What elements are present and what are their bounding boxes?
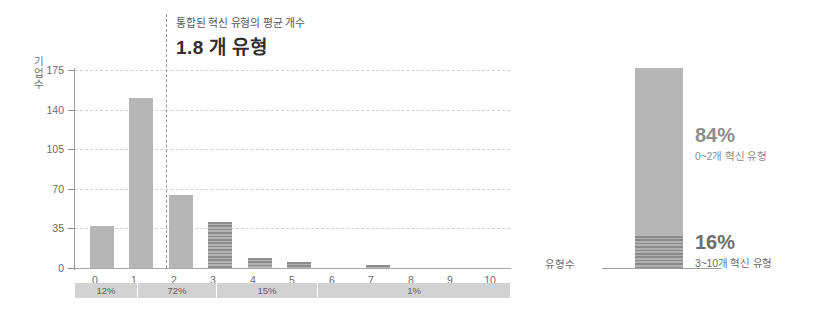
band-label-12: 12% xyxy=(75,283,137,298)
bar-0 xyxy=(90,226,114,268)
callout-84-percent: 84% xyxy=(695,125,767,146)
tick-175 xyxy=(68,70,75,71)
band-segment-72: 72% xyxy=(138,283,217,298)
y-tick-label-140: 140 xyxy=(34,104,64,116)
y-tick-label-105: 105 xyxy=(34,143,64,155)
stacked-bar xyxy=(635,68,683,268)
callout-16-description: 3~10개 혁신 유형 xyxy=(695,255,772,270)
band-label-1: 1% xyxy=(318,283,510,298)
tick-140 xyxy=(68,110,75,111)
bar-4 xyxy=(248,258,272,268)
stack-segment-84 xyxy=(635,68,683,236)
bar-5 xyxy=(287,262,311,268)
callout-84: 84% 0~2개 혁신 유형 xyxy=(695,125,767,163)
mean-annotation: 통합된 혁신 유형의 평균 개수 1.8 개 유형 xyxy=(176,14,406,59)
mean-reference-line xyxy=(166,14,167,268)
bars-area xyxy=(75,70,510,268)
y-tick-label-175: 175 xyxy=(34,64,64,76)
band-label-15: 15% xyxy=(217,283,317,298)
x-axis-line xyxy=(74,268,511,269)
mean-annotation-value: 1.8 개 유형 xyxy=(176,32,406,59)
tick-0 xyxy=(68,268,75,269)
right-axis-title: 유형수 xyxy=(545,256,575,271)
bar-3 xyxy=(208,222,232,268)
tick-105 xyxy=(68,149,75,150)
bar-2 xyxy=(169,195,193,269)
y-tick-label-0: 0 xyxy=(34,262,64,274)
y-tick-label-70: 70 xyxy=(34,183,64,195)
tick-70 xyxy=(68,189,75,190)
callout-84-description: 0~2개 혁신 유형 xyxy=(695,148,767,163)
callout-16: 16% 3~10개 혁신 유형 xyxy=(695,232,772,270)
band-segment-12: 12% xyxy=(75,283,138,298)
stack-segment-16 xyxy=(635,236,683,268)
band-label-72: 72% xyxy=(138,283,216,298)
tick-35 xyxy=(68,228,75,229)
band-segment-1: 1% xyxy=(318,283,510,298)
stacked-bar-chart: 유형수 84% 0~2개 혁신 유형 16% 3~10개 혁신 유형 xyxy=(540,0,822,316)
bar-1 xyxy=(129,98,153,268)
chart-figure: 기 업 수 175 140 105 70 35 0 xyxy=(0,0,822,316)
histogram-chart: 기 업 수 175 140 105 70 35 0 xyxy=(0,0,540,316)
mean-annotation-subtitle: 통합된 혁신 유형의 평균 개수 xyxy=(176,14,406,30)
y-tick-label-35: 35 xyxy=(34,222,64,234)
band-segment-15: 15% xyxy=(217,283,318,298)
callout-16-percent: 16% xyxy=(695,232,772,253)
bar-7 xyxy=(366,265,390,268)
